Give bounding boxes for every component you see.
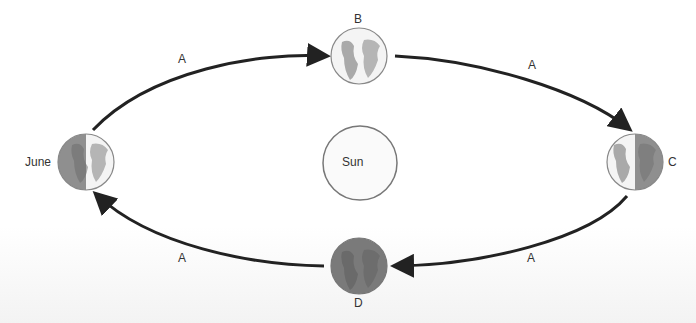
sun-label: Sun xyxy=(342,155,363,169)
arrow-label-b-c: A xyxy=(528,58,536,72)
arrow-june-to-b xyxy=(93,55,325,130)
position-label-c: C xyxy=(668,155,677,169)
arrow-d-to-june xyxy=(97,195,324,266)
arrow-b-to-c xyxy=(395,56,628,128)
position-label-june: June xyxy=(25,155,51,169)
arrow-label-c-d: A xyxy=(527,251,535,265)
arrow-label-june-b: A xyxy=(178,52,186,66)
orbit-diagram: Sun June B C D A A A A xyxy=(0,0,696,323)
arrow-label-d-june: A xyxy=(178,251,186,265)
arrow-c-to-d xyxy=(396,196,627,266)
position-label-d: D xyxy=(354,296,363,310)
position-label-b: B xyxy=(354,12,362,26)
